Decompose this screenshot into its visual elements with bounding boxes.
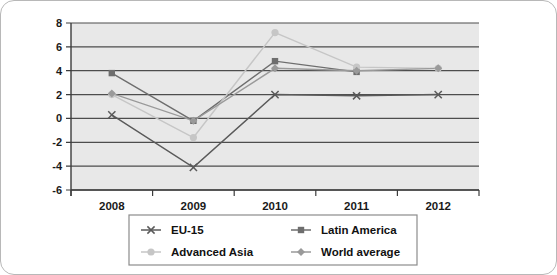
y-tick-label-8: 8: [56, 17, 62, 29]
legend-label-2: Advanced Asia: [171, 246, 254, 258]
series-latin-america-pt-2-marker-square: [272, 58, 278, 64]
plot-background: [71, 23, 479, 190]
y-tick-label-0: 0: [56, 112, 62, 124]
series-latin-america-pt-0-marker-square: [109, 70, 115, 76]
y-tick-label-6: 6: [56, 41, 62, 53]
y-tick-label--6: -6: [52, 184, 62, 196]
y-tick-label-2: 2: [56, 89, 62, 101]
x-axis: [71, 190, 479, 196]
y-tick-label--4: -4: [52, 160, 63, 172]
y-tick-label--2: -2: [52, 136, 62, 148]
figure-frame: 86420-2-4-6 20082009201020112012 EU-15La…: [0, 0, 557, 275]
series-advanced-asia-pt-2-marker-circle: [271, 29, 278, 36]
y-axis: [66, 23, 71, 196]
series-advanced-asia-pt-1-marker-circle: [190, 134, 197, 141]
x-tick-label-2012: 2012: [425, 200, 451, 212]
x-tick-labels: 20082009201020112012: [99, 200, 451, 212]
x-tick-label-2010: 2010: [262, 200, 288, 212]
legend-label-0: EU-15: [171, 224, 204, 236]
x-tick-label-2008: 2008: [99, 200, 125, 212]
plot-background-group: [71, 23, 479, 190]
legend-label-1: Latin America: [321, 224, 397, 236]
x-tick-label-2011: 2011: [344, 200, 370, 212]
y-tick-label-4: 4: [56, 65, 63, 77]
legend-1-marker-square: [298, 227, 304, 233]
legend-2-marker-circle: [147, 248, 154, 255]
x-tick-label-2009: 2009: [181, 200, 207, 212]
y-tick-labels: 86420-2-4-6: [52, 17, 63, 196]
line-chart: 86420-2-4-6 20082009201020112012 EU-15La…: [1, 1, 557, 275]
chart-legend: EU-15Latin AmericaAdvanced AsiaWorld ave…: [129, 215, 417, 265]
legend-label-3: World average: [321, 246, 400, 258]
